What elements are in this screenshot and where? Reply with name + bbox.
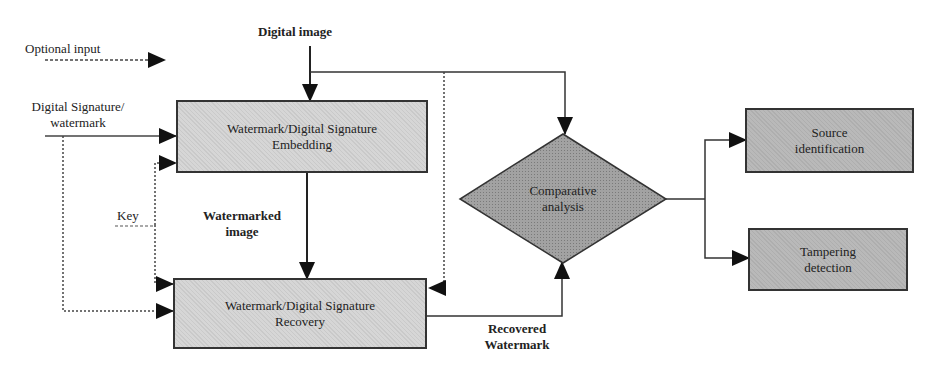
watermarked-image-label-line2: image: [182, 224, 302, 240]
digital-image-label: Digital image: [258, 24, 332, 40]
embedding-box-line1: Watermark/Digital Signature: [227, 121, 377, 137]
tampering-line2: detection: [800, 260, 856, 276]
digital-signature-label: Digital Signature/ watermark: [8, 99, 148, 131]
comparative-line2: analysis: [500, 199, 626, 215]
recovered-watermark-label-line2: Watermark: [462, 337, 572, 353]
embedding-box: Watermark/Digital Signature Embedding: [176, 100, 428, 173]
digital-signature-label-line2: watermark: [8, 115, 148, 131]
key-label: Key: [117, 208, 139, 224]
recovery-box-line1: Watermark/Digital Signature: [225, 298, 375, 314]
key-to-recovery-arrow: [155, 225, 173, 284]
comparative-to-outputs-connector: [666, 140, 749, 258]
recovery-box-line2: Recovery: [225, 314, 375, 330]
tampering-line1: Tampering: [800, 244, 856, 260]
key-to-embedding-arrow: [155, 163, 176, 225]
optional-input-label: Optional input: [25, 41, 100, 57]
watermarking-flow-diagram: Optional input Digital image Digital Sig…: [0, 0, 933, 377]
watermarked-image-label-line1: Watermarked: [182, 208, 302, 224]
recovered-watermark-arrow: [426, 262, 562, 316]
comparative-analysis-text: Comparative analysis: [500, 183, 626, 215]
tampering-detection-box: Tampering detection: [748, 228, 908, 291]
comparative-line1: Comparative: [500, 183, 626, 199]
embedding-box-line2: Embedding: [227, 137, 377, 153]
optional-image-to-recovery-arrow: [429, 72, 444, 288]
watermarked-image-label: Watermarked image: [182, 208, 302, 240]
recovery-box: Watermark/Digital Signature Recovery: [173, 278, 427, 349]
source-line2: identification: [795, 141, 864, 157]
recovered-watermark-label: Recovered Watermark: [462, 321, 572, 353]
recovered-watermark-label-line1: Recovered: [462, 321, 572, 337]
digital-signature-label-line1: Digital Signature/: [8, 99, 148, 115]
source-identification-box: Source identification: [745, 108, 914, 173]
source-line1: Source: [795, 125, 864, 141]
